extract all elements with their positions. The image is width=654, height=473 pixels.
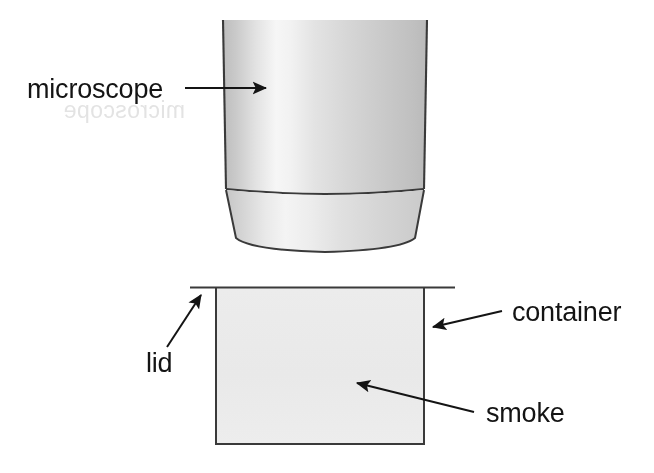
microscope-objective <box>226 190 424 252</box>
container-arrow <box>433 311 502 327</box>
microscope-smoke-diagram: microscope instruction observation <box>0 0 654 473</box>
microscope-barrel <box>223 20 427 194</box>
diagram-canvas: microscope instruction observation <box>0 0 654 473</box>
label-microscope: microscope <box>27 74 163 104</box>
label-lid: lid <box>146 348 172 378</box>
label-container: container <box>512 297 621 327</box>
lid-arrow <box>167 295 201 347</box>
label-smoke: smoke <box>486 398 565 428</box>
container-group <box>190 288 455 445</box>
smoke-region <box>216 288 424 444</box>
microscope-group <box>223 20 427 252</box>
